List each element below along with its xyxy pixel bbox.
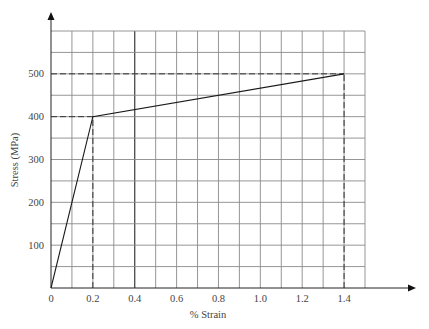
x-tick-label: 0.4: [128, 293, 142, 304]
y-tick-labels: 100200300400500: [28, 68, 44, 250]
x-tick-label: 1.4: [338, 293, 352, 304]
y-axis-arrow-icon: [48, 12, 55, 20]
y-tick-label: 400: [28, 111, 44, 122]
axes: [48, 12, 417, 292]
y-tick-label: 500: [28, 68, 44, 79]
x-tick-label: 0.6: [170, 293, 183, 304]
x-axis-arrow-icon: [408, 285, 416, 292]
x-tick-label: 1.2: [296, 293, 309, 304]
x-tick-labels: 00.20.40.60.81.01.21.4: [48, 293, 351, 304]
stress-strain-chart: 00.20.40.60.81.01.21.4 100200300400500 %…: [0, 0, 429, 329]
y-tick-label: 300: [28, 154, 44, 165]
grid: [51, 31, 365, 288]
x-tick-label: 0: [48, 293, 53, 304]
x-tick-label: 1.0: [254, 293, 267, 304]
y-tick-label: 100: [28, 240, 44, 251]
x-tick-label: 0.8: [212, 293, 225, 304]
y-tick-label: 200: [28, 197, 44, 208]
y-axis-title: Stress (MPa): [9, 132, 21, 187]
x-tick-label: 0.2: [86, 293, 99, 304]
x-axis-title: % Strain: [190, 309, 227, 320]
